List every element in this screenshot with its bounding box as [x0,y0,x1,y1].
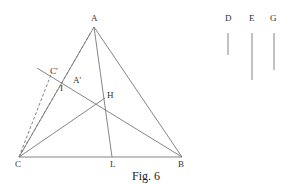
label-b: B [178,159,184,169]
figure-caption: Fig. 6 [132,169,160,183]
label-a-prime: A' [73,75,81,85]
label-c-prime: C' [50,66,58,76]
line-through-i-h-b [37,68,182,157]
dashed-line-outer [19,72,52,157]
geometry-figure: A C' A' I H C L B D E G Fig. 6 [0,0,291,184]
label-i: I [60,83,63,93]
label-a: A [91,13,98,23]
label-e: E [249,13,255,23]
label-g: G [270,13,277,23]
label-d: D [225,13,232,23]
label-l: L [110,159,116,169]
cevian-ch [19,98,105,157]
label-h: H [107,90,114,100]
label-c: C [15,159,21,169]
